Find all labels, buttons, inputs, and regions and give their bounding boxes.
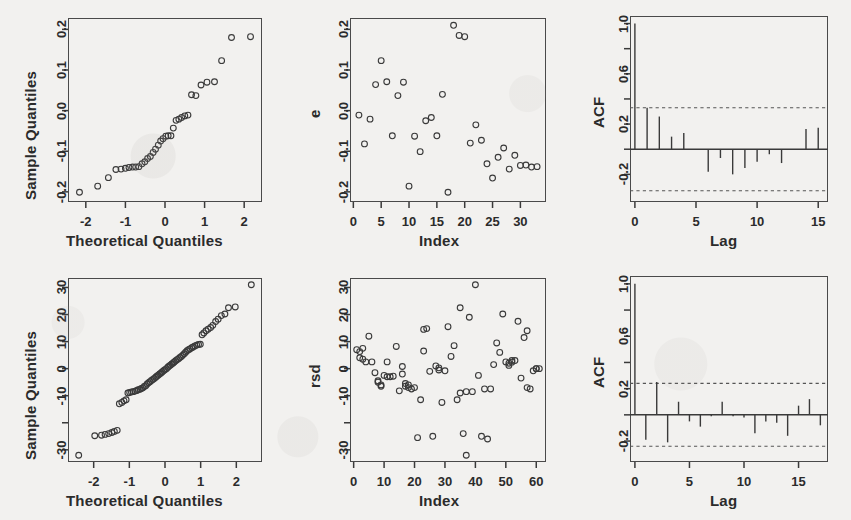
axis-label-x: Lag [710,492,737,509]
y-tick-label: 1.0 [616,275,631,293]
x-tick-label: 60 [529,474,543,489]
x-tick-label: 10 [377,474,391,489]
axis-label-y: e [306,109,323,118]
data-point [219,58,225,64]
y-tick-label: 0.6 [616,65,631,83]
data-point [393,344,399,350]
data-point [529,164,535,170]
data-point [417,149,423,155]
y-tick-label: 20 [54,307,69,321]
data-point [469,389,475,395]
data-point [222,311,228,317]
axis-label-y: rsd [306,364,323,388]
x-tick-label: 2 [233,474,240,489]
data-point [395,93,401,99]
data-point [485,436,491,442]
data-point [463,452,469,458]
axis-label-x: Theoretical Quantiles [66,232,223,249]
data-point [523,162,529,168]
x-tick-label: -2 [80,214,92,229]
data-point [442,368,448,374]
data-point [476,373,482,379]
data-point [515,318,521,324]
y-tick-label: -10 [336,386,351,405]
data-point [440,91,446,97]
x-tick-label: 0 [631,474,638,489]
y-tick-label: 20 [336,307,351,321]
y-tick-label: -0.2 [54,181,69,203]
data-point [204,79,210,85]
x-tick-label: -1 [120,214,132,229]
data-point [448,354,454,360]
y-tick-label: -0.1 [336,140,351,162]
axis-label-x: Lag [710,232,737,249]
data-point [472,282,478,288]
data-point [198,82,204,88]
x-tick-label: 2 [241,214,248,229]
data-point [378,58,384,64]
y-tick-label: 0.2 [616,380,631,398]
data-point [430,433,436,439]
data-point [490,175,496,181]
data-point [170,125,176,131]
data-point [434,133,440,139]
data-point [427,368,433,374]
data-point [95,183,101,189]
data-points [76,282,254,458]
data-point [500,311,506,317]
data-points [354,282,542,458]
data-point [445,189,451,195]
data-point [512,152,518,158]
data-point [77,189,83,195]
data-points [77,34,254,195]
data-points [356,22,540,195]
y-tick-label: 0.1 [336,61,351,79]
data-point [384,79,390,85]
data-point [473,122,479,128]
acf-spikes [635,284,820,442]
panel-bottom-right-acf: ACF Lag 051015-0.20.20.61.0 [568,260,851,520]
panel-bottom-left-qq: Sample Quantiles Theoretical Quantiles -… [0,260,284,520]
x-tick-label: 0 [161,214,168,229]
y-tick-label: 0 [54,365,69,372]
data-point [412,133,418,139]
data-point [534,164,540,170]
data-point [76,452,82,458]
y-tick-label: 0.0 [54,102,69,120]
data-point [451,22,457,28]
x-tick-label: 50 [499,474,513,489]
x-tick-label: 15 [811,214,825,229]
data-point [248,282,254,288]
data-point [418,397,424,403]
data-point [495,154,501,160]
x-tick-label: 5 [686,474,693,489]
x-tick-label: 15 [791,474,805,489]
data-point [484,161,490,167]
data-point [406,183,412,189]
axis-label-x: Theoretical Quantiles [66,492,223,509]
data-point [488,386,494,392]
data-point [457,390,463,396]
y-tick-label: 30 [336,280,351,294]
y-tick-label: -0.2 [336,181,351,203]
data-point [232,304,238,310]
data-point [389,133,395,139]
data-point [457,305,463,311]
data-point [401,79,407,85]
panel-top-middle-residuals: e Index 051015202530-0.2-0.10.00.10.2 [284,0,568,260]
x-tick-label: 0 [161,474,168,489]
data-point [491,362,497,368]
x-tick-label: 0 [350,214,357,229]
x-tick-label: 25 [485,214,499,229]
x-tick-label: 1 [201,214,208,229]
data-point [501,145,507,151]
x-tick-label: -1 [124,474,136,489]
y-tick-label: -0.2 [616,430,631,452]
data-point [105,175,111,181]
y-tick-label: 0.2 [54,20,69,38]
x-tick-label: 30 [513,214,527,229]
y-tick-label: 0.2 [616,115,631,133]
x-tick-label: 5 [692,214,699,229]
data-point [494,340,500,346]
data-point [428,115,434,121]
